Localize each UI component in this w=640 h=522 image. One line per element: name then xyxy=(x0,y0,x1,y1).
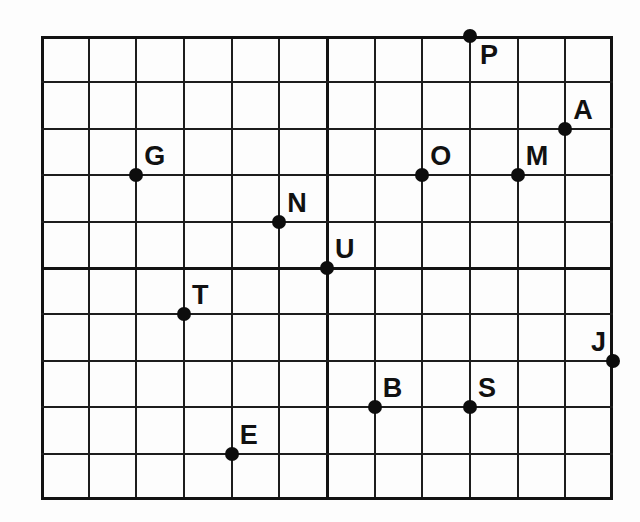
worksheet-page: PAGOMNUTJBSE xyxy=(0,0,640,522)
point-dot-O xyxy=(415,168,429,182)
point-label-P: P xyxy=(480,42,498,69)
point-dot-J xyxy=(606,354,620,368)
point-dot-B xyxy=(368,400,382,414)
point-label-S: S xyxy=(478,375,496,402)
coordinate-grid: PAGOMNUTJBSE xyxy=(41,36,613,500)
point-dot-N xyxy=(272,215,286,229)
grid-line-horizontal xyxy=(41,128,613,130)
point-dot-T xyxy=(177,307,191,321)
point-label-M: M xyxy=(526,143,549,170)
point-label-J: J xyxy=(591,329,606,356)
point-label-O: O xyxy=(430,143,451,170)
point-label-U: U xyxy=(335,236,355,263)
grid-line-horizontal xyxy=(41,221,613,223)
point-dot-S xyxy=(463,400,477,414)
point-label-E: E xyxy=(240,422,258,449)
grid-border-horizontal xyxy=(41,497,613,500)
point-dot-M xyxy=(511,168,525,182)
grid-line-horizontal xyxy=(41,174,613,176)
grid-line-horizontal xyxy=(41,81,613,83)
point-dot-P xyxy=(463,29,477,43)
grid-line-horizontal xyxy=(41,360,613,362)
point-label-A: A xyxy=(573,97,593,124)
point-label-G: G xyxy=(144,143,165,170)
grid-line-horizontal xyxy=(41,313,613,315)
grid-line-horizontal xyxy=(41,453,613,455)
point-label-T: T xyxy=(192,282,209,309)
grid-border-horizontal xyxy=(41,36,613,39)
point-label-B: B xyxy=(383,375,403,402)
point-dot-G xyxy=(129,168,143,182)
point-dot-E xyxy=(225,447,239,461)
grid-line-horizontal xyxy=(41,406,613,408)
point-label-N: N xyxy=(287,190,307,217)
point-dot-U xyxy=(320,261,334,275)
point-dot-A xyxy=(558,122,572,136)
